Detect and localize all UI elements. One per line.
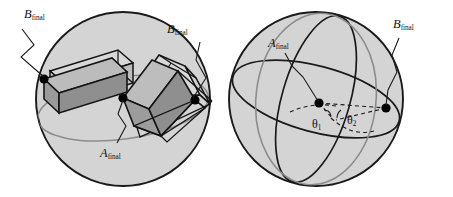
right-vertex-dot <box>190 95 199 104</box>
diagram-canvas: Bfinal Bfinal Afinal Afinal Bfinal θ1 θ2 <box>0 0 453 197</box>
label-b-final-left: Bfinal <box>24 7 45 22</box>
right-panel <box>224 7 407 191</box>
label-b-final-mid: Bfinal <box>167 22 188 37</box>
figure-root: Bfinal Bfinal Afinal Afinal Bfinal θ1 θ2 <box>0 0 453 197</box>
label-b-final-right: Bfinal <box>393 17 414 32</box>
a-final-dot <box>314 98 323 107</box>
left-vertex-dot <box>39 74 48 83</box>
